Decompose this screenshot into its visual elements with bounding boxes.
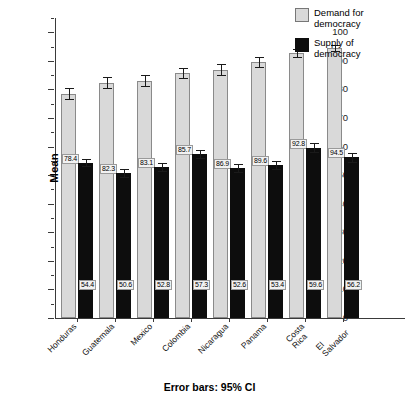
value-label-supply: 52.8 xyxy=(155,280,172,290)
bar-demand xyxy=(175,73,190,318)
y-tick-minor xyxy=(51,218,54,219)
y-tick-mark xyxy=(48,261,54,262)
chart-legend: Demand for democracy Supply of democracy xyxy=(295,8,415,68)
error-bar-cap xyxy=(179,78,188,79)
x-axis-label-line: Honduras xyxy=(46,322,78,354)
value-label-demand: 86.9 xyxy=(214,159,231,169)
x-axis-label: Colombia xyxy=(161,322,193,354)
y-tick-mark xyxy=(48,61,54,62)
value-label-supply: 52.6 xyxy=(231,280,248,290)
error-bar-cap xyxy=(196,150,205,151)
value-label-supply: 57.3 xyxy=(193,280,210,290)
legend-item-supply: Supply of democracy xyxy=(295,38,415,59)
bar-supply xyxy=(344,157,359,318)
value-label-supply: 56.2 xyxy=(345,280,362,290)
y-tick-mark xyxy=(48,89,54,90)
error-bar-cap xyxy=(141,75,150,76)
x-tick-mark xyxy=(115,318,116,322)
x-tick-mark xyxy=(153,318,154,322)
x-axis-label-line: Colombia xyxy=(161,322,193,354)
bar-group: 83.152.8 xyxy=(137,18,169,318)
error-bar-demand xyxy=(69,88,70,99)
y-tick-minor xyxy=(51,132,54,133)
value-label-supply: 53.4 xyxy=(269,280,286,290)
error-bar-supply xyxy=(124,169,125,177)
bar-demand xyxy=(137,81,152,318)
x-axis-label: ElSalvador xyxy=(314,322,350,358)
y-tick-mark xyxy=(48,32,54,33)
bar-demand xyxy=(213,70,228,318)
y-tick-minor xyxy=(51,75,54,76)
x-axis-label: CostaRica xyxy=(284,322,312,350)
x-tick-mark xyxy=(267,318,268,322)
bar-demand xyxy=(289,53,304,318)
error-bar-supply xyxy=(86,159,87,166)
bar-supply xyxy=(78,163,93,318)
x-axis-label: Mexico xyxy=(129,322,154,347)
value-label-demand: 83.1 xyxy=(138,158,155,168)
error-bar-cap xyxy=(272,169,281,170)
legend-label-supply-line2: democracy xyxy=(314,48,360,59)
supply-swatch-icon xyxy=(295,38,309,52)
y-tick-minor xyxy=(51,189,54,190)
error-bar-cap xyxy=(234,164,243,165)
bar-group: 86.952.6 xyxy=(213,18,245,318)
error-bar-cap xyxy=(65,88,74,89)
error-bar-cap xyxy=(120,169,129,170)
x-axis-label: Guatemala xyxy=(81,322,117,358)
value-label-demand: 78.4 xyxy=(62,154,79,164)
legend-label-demand-line2: democracy xyxy=(314,18,360,29)
y-tick-mark xyxy=(48,175,54,176)
y-tick-minor xyxy=(51,275,54,276)
y-tick-minor xyxy=(51,47,54,48)
bar-supply xyxy=(306,148,321,318)
y-tick-mark xyxy=(48,147,54,148)
chart-caption: Error bars: 95% CI xyxy=(0,381,419,393)
x-axis-line xyxy=(55,318,405,319)
bar-supply xyxy=(268,165,283,318)
value-label-demand: 85.7 xyxy=(176,145,193,155)
error-bar-cap xyxy=(310,152,319,153)
x-tick-mark xyxy=(229,318,230,322)
x-axis-label-line: Mexico xyxy=(129,322,154,347)
error-bar-supply xyxy=(162,163,163,172)
error-bar-supply xyxy=(352,153,353,162)
error-bar-supply xyxy=(200,150,201,158)
demand-swatch-icon xyxy=(295,8,309,22)
bar-group: 85.757.3 xyxy=(175,18,207,318)
error-bar-cap xyxy=(158,171,167,172)
error-bar-cap xyxy=(234,172,243,173)
error-bar-demand xyxy=(107,77,108,88)
error-bar-supply xyxy=(314,143,315,152)
bar-supply xyxy=(230,168,245,318)
error-bar-cap xyxy=(348,162,357,163)
error-bar-cap xyxy=(65,99,74,100)
bar-demand xyxy=(99,83,114,318)
x-tick-mark xyxy=(343,318,344,322)
legend-label-supply-line1: Supply of xyxy=(314,37,354,48)
y-tick-mark xyxy=(48,289,54,290)
error-bar-cap xyxy=(179,68,188,69)
x-axis-label: Nicaragua xyxy=(197,322,231,356)
y-tick-minor xyxy=(51,18,54,19)
value-label-supply: 59.6 xyxy=(307,280,324,290)
y-axis-title: Mean xyxy=(48,153,60,182)
bar-supply xyxy=(154,167,169,318)
x-axis-label-line: Nicaragua xyxy=(197,322,231,356)
error-bar-cap xyxy=(82,166,91,167)
legend-label-demand-line1: Demand for xyxy=(314,7,364,18)
bar-supply xyxy=(116,173,131,318)
x-axis-label: Panama xyxy=(240,322,269,351)
legend-label-supply: Supply of democracy xyxy=(314,38,360,59)
value-label-demand: 82.3 xyxy=(100,164,117,174)
x-axis-label-line: Panama xyxy=(240,322,269,351)
legend-item-demand: Demand for democracy xyxy=(295,8,415,29)
error-bar-cap xyxy=(217,75,226,76)
error-bar-cap xyxy=(272,161,281,162)
error-bar-cap xyxy=(217,64,226,65)
error-bar-cap xyxy=(120,177,129,178)
value-label-demand: 89.6 xyxy=(252,156,269,166)
error-bar-cap xyxy=(196,158,205,159)
y-tick-mark xyxy=(48,232,54,233)
bar-group: 82.350.6 xyxy=(99,18,131,318)
